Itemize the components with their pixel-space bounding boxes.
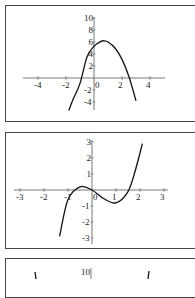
y-tick-label: 10 — [81, 267, 91, 277]
curve-segment-left — [35, 272, 36, 279]
curve-segment-right — [148, 271, 149, 279]
